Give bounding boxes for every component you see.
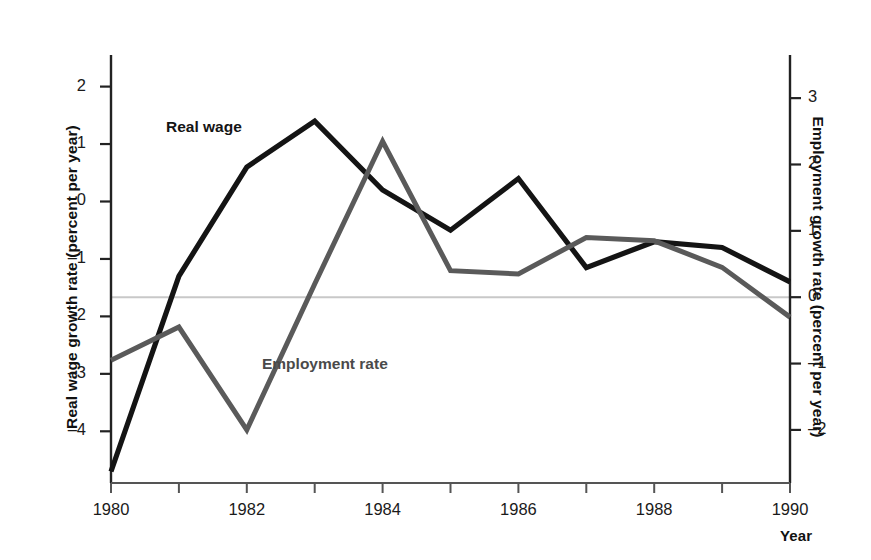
series-line-employment-rate xyxy=(111,141,790,430)
chart-figure: Real wage growth rate (percent per year)… xyxy=(0,0,871,560)
y-tick-label-right-0: 3 xyxy=(808,87,842,106)
y-tick-label-right-3: 0 xyxy=(808,286,842,305)
x-tick-label-6: 1986 xyxy=(483,500,553,519)
series-label-employment-rate: Employment rate xyxy=(262,355,388,373)
y-tick-label-right-2: 1 xyxy=(808,220,842,239)
x-tick-label-2: 1982 xyxy=(212,500,282,519)
y-tick-label-left-1: 1 xyxy=(52,133,86,152)
y-tick-label-left-6: –4 xyxy=(52,420,86,439)
y-tick-label-right-5: –2 xyxy=(808,419,842,438)
y-tick-label-left-2: 0 xyxy=(52,190,86,209)
series-label-real-wage: Real wage xyxy=(166,118,242,136)
x-tick-label-8: 1988 xyxy=(619,500,689,519)
x-tick-label-4: 1984 xyxy=(348,500,418,519)
plot-area xyxy=(0,0,871,560)
x-tick-label-0: 1980 xyxy=(76,500,146,519)
y-tick-label-left-5: –3 xyxy=(52,363,86,382)
y-tick-label-right-4: –1 xyxy=(808,353,842,372)
y-tick-label-left-4: –2 xyxy=(52,305,86,324)
x-tick-label-10: 1990 xyxy=(755,500,825,519)
y-tick-label-left-0: 2 xyxy=(52,76,86,95)
y-tick-label-right-1: 2 xyxy=(808,153,842,172)
y-tick-label-left-3: –1 xyxy=(52,248,86,267)
